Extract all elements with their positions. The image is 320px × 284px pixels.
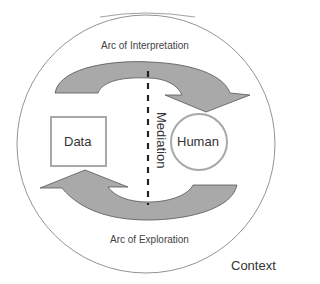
arc-interpretation-arrow (55, 62, 250, 112)
context-label: Context (231, 258, 276, 273)
arc-exploration-arrow (40, 170, 237, 220)
mediation-label: Mediation (154, 112, 169, 168)
arc-interpretation-label: Arc of Interpretation (101, 40, 189, 51)
human-label: Human (177, 134, 219, 149)
data-label: Data (64, 134, 91, 149)
arc-exploration-label: Arc of Exploration (110, 234, 189, 245)
